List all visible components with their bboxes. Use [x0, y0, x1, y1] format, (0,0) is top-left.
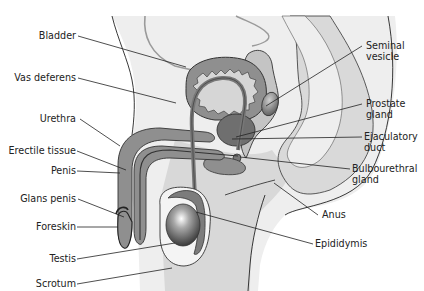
label-bladder: Bladder: [39, 30, 76, 41]
label-scrotum: Scrotum: [36, 278, 76, 289]
label-epididymis: Epididymis: [315, 238, 367, 249]
label-foreskin: Foreskin: [36, 221, 76, 232]
label-penis: Penis: [51, 165, 76, 176]
testis-shape: [166, 204, 200, 246]
label-glans-penis: Glans penis: [20, 193, 76, 204]
anatomy-diagram: Bladder Vas deferens Urethra Erectile ti…: [0, 0, 424, 291]
label-testis: Testis: [49, 253, 76, 264]
label-prostate-gland: Prostate gland: [366, 98, 406, 120]
scrotum-shape: [160, 187, 211, 266]
label-anus: Anus: [322, 209, 346, 220]
label-seminal-vesicle: Seminal vesicle: [366, 40, 405, 62]
label-vas-deferens: Vas deferens: [14, 72, 76, 83]
prostate-shape: [217, 114, 255, 146]
label-bulbourethral-gland: Bulbourethral gland: [352, 163, 417, 185]
label-urethra: Urethra: [40, 113, 76, 124]
label-erectile-tissue: Erectile tissue: [9, 145, 76, 156]
label-ejaculatory-duct: Ejaculatory duct: [364, 131, 418, 153]
